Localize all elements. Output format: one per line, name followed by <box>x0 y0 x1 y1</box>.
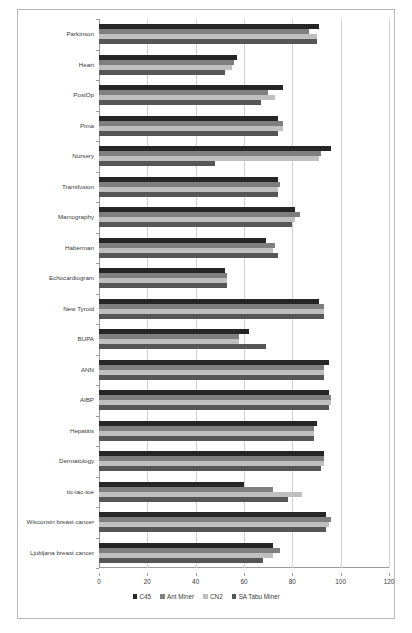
bar-sa-tabu-miner <box>99 222 292 227</box>
bar-sa-tabu-miner <box>99 161 215 166</box>
legend-swatch-icon <box>203 594 208 599</box>
category-label: AIBP <box>80 397 94 403</box>
category-label: Dermatology <box>59 458 94 464</box>
legend-label: C45 <box>140 593 152 600</box>
y-tick-mark <box>96 446 99 447</box>
category-label: BUPA <box>78 336 94 342</box>
bar-group <box>99 385 389 416</box>
bar-group <box>99 477 389 508</box>
legend-label: Ant Miner <box>167 593 194 600</box>
bar-sa-tabu-miner <box>99 100 261 105</box>
y-tick-mark <box>96 233 99 234</box>
y-tick-mark <box>96 324 99 325</box>
y-tick-mark <box>96 202 99 203</box>
bar-sa-tabu-miner <box>99 558 263 563</box>
category-label: Wisconsin breast cancer <box>27 519 94 525</box>
bar-sa-tabu-miner <box>99 375 324 380</box>
bar-sa-tabu-miner <box>99 405 329 410</box>
category-label: Hepatitis <box>70 428 94 434</box>
bar-group <box>99 355 389 386</box>
category-label: Ljubljana breast cancer <box>30 550 94 556</box>
bar-sa-tabu-miner <box>99 283 227 288</box>
legend-swatch-icon <box>160 594 165 599</box>
gridline-120 <box>389 19 390 568</box>
category-label: Transfusion <box>62 184 94 190</box>
chart-legend: C45Ant MinerCN2SA Tabu Miner <box>18 593 394 600</box>
x-tick-label-100: 100 <box>335 578 346 585</box>
category-label: Echocardiogram <box>49 275 94 281</box>
bar-sa-tabu-miner <box>99 497 288 502</box>
category-label: Nursery <box>72 153 94 159</box>
x-tick-label-120: 120 <box>384 578 395 585</box>
plot-area: ParkinsonHeartPostOpPimaNurseryTransfusi… <box>99 19 389 568</box>
bar-group <box>99 507 389 538</box>
x-tick-label-80: 80 <box>289 578 296 585</box>
bar-sa-tabu-miner <box>99 466 321 471</box>
bar-sa-tabu-miner <box>99 39 317 44</box>
x-tick-mark-80 <box>292 573 293 576</box>
bar-group <box>99 19 389 50</box>
y-tick-mark <box>96 538 99 539</box>
category-label: Mamography <box>58 214 94 220</box>
plot-wrapper: ParkinsonHeartPostOpPimaNurseryTransfusi… <box>18 10 394 618</box>
x-tick-mark-100 <box>341 573 342 576</box>
y-tick-mark <box>96 50 99 51</box>
bar-sa-tabu-miner <box>99 314 324 319</box>
y-tick-mark <box>96 80 99 81</box>
x-tick-mark-60 <box>244 573 245 576</box>
y-tick-mark <box>96 416 99 417</box>
x-axis-tick-labels: 020406080100120 <box>99 573 389 587</box>
x-tick-mark-40 <box>196 573 197 576</box>
bar-group <box>99 202 389 233</box>
legend-item-sa-tabu-miner[interactable]: SA Tabu Miner <box>232 593 280 600</box>
bar-sa-tabu-miner <box>99 131 278 136</box>
y-tick-mark <box>96 141 99 142</box>
chart-frame: ParkinsonHeartPostOpPimaNurseryTransfusi… <box>17 9 395 619</box>
bar-group <box>99 294 389 325</box>
y-tick-mark <box>96 568 99 569</box>
bar-sa-tabu-miner <box>99 436 314 441</box>
category-label: ANN <box>81 367 94 373</box>
x-tick-label-20: 20 <box>144 578 151 585</box>
legend-item-cn2[interactable]: CN2 <box>203 593 223 600</box>
category-label: Heart <box>79 62 94 68</box>
y-tick-mark <box>96 19 99 20</box>
bar-sa-tabu-miner <box>99 70 225 75</box>
x-tick-label-60: 60 <box>240 578 247 585</box>
category-label: New Tyroid <box>63 306 94 312</box>
legend-swatch-icon <box>133 594 138 599</box>
bar-group <box>99 111 389 142</box>
category-label: PostOp <box>73 92 94 98</box>
y-tick-mark <box>96 355 99 356</box>
bar-sa-tabu-miner <box>99 253 278 258</box>
bar-group <box>99 50 389 81</box>
x-tick-mark-0 <box>99 573 100 576</box>
bar-sa-tabu-miner <box>99 527 326 532</box>
x-tick-mark-120 <box>389 573 390 576</box>
category-label: Haberman <box>65 245 94 251</box>
bar-group <box>99 172 389 203</box>
category-label: tic-tac-toe <box>67 489 94 495</box>
y-tick-mark <box>96 294 99 295</box>
bar-group <box>99 80 389 111</box>
legend-item-c45[interactable]: C45 <box>133 593 152 600</box>
bar-group <box>99 263 389 294</box>
y-tick-mark <box>96 263 99 264</box>
y-tick-mark <box>96 111 99 112</box>
bar-group <box>99 538 389 569</box>
legend-label: CN2 <box>210 593 223 600</box>
legend-swatch-icon <box>232 594 237 599</box>
y-tick-mark <box>96 172 99 173</box>
x-tick-label-0: 0 <box>97 578 101 585</box>
bar-group <box>99 446 389 477</box>
bar-group <box>99 324 389 355</box>
legend-item-ant-miner[interactable]: Ant Miner <box>160 593 194 600</box>
bar-group <box>99 416 389 447</box>
bar-group <box>99 141 389 172</box>
y-tick-mark <box>96 477 99 478</box>
x-tick-label-40: 40 <box>192 578 199 585</box>
bar-sa-tabu-miner <box>99 192 278 197</box>
y-tick-mark <box>96 507 99 508</box>
category-label: Parkinson <box>66 31 94 37</box>
legend-label: SA Tabu Miner <box>239 593 280 600</box>
